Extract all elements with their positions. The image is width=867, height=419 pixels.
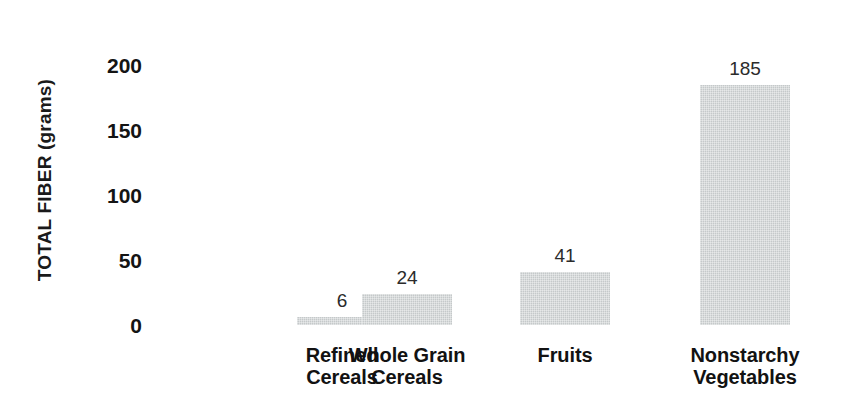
bar-value-label: 24 — [337, 268, 477, 287]
plot-area: 6Refined Cereals24Whole Grain Cereals41F… — [152, 0, 867, 419]
bar-group[interactable]: 41Fruits — [520, 0, 610, 419]
bar-category-label: Fruits — [480, 344, 650, 366]
bar[interactable] — [362, 294, 452, 325]
y-axis-tick-50: 50 — [52, 250, 142, 271]
bar-group[interactable]: 24Whole Grain Cereals — [362, 0, 452, 419]
y-axis-tick-200: 200 — [52, 55, 142, 76]
bar-value-label: 185 — [675, 59, 815, 78]
bar-category-label: Nonstarchy Vegetables — [660, 344, 830, 389]
bar-group[interactable]: 185Nonstarchy Vegetables — [700, 0, 790, 419]
bar[interactable] — [520, 272, 610, 325]
bar-value-label: 41 — [495, 246, 635, 265]
y-axis-tick-labels: 200150100500 — [52, 0, 142, 419]
y-axis-tick-0: 0 — [52, 315, 142, 336]
bar[interactable] — [700, 85, 790, 326]
bar-chart: TOTAL FIBER (grams) 200150100500 6Refine… — [0, 0, 867, 419]
y-axis-tick-150: 150 — [52, 120, 142, 141]
bar-category-label: Whole Grain Cereals — [322, 344, 492, 389]
y-axis-tick-100: 100 — [52, 185, 142, 206]
